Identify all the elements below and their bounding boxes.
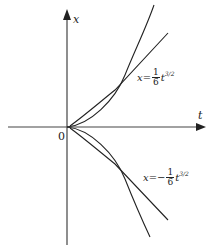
lower-curve-equation: x = − 1 6 t 3/2 bbox=[143, 168, 189, 188]
lower-eq-sign: − bbox=[157, 173, 165, 183]
t-axis-label: t bbox=[198, 110, 202, 121]
x-axis-label: x bbox=[73, 14, 79, 25]
lower-eq-equals: = bbox=[149, 173, 157, 183]
diagram-canvas: x t 0 x = 1 6 t 3/2 x = − 1 6 t 3/2 bbox=[0, 0, 210, 250]
lower-eq-exponent: 3/2 bbox=[179, 171, 189, 177]
upper-eq-equals: = bbox=[143, 73, 151, 83]
upper-curve-equation: x = 1 6 t 3/2 bbox=[137, 68, 174, 88]
lower-eq-fraction: 1 6 bbox=[166, 168, 174, 188]
t-axis-arrow-icon bbox=[196, 123, 206, 131]
upper-eq-fraction: 1 6 bbox=[152, 68, 160, 88]
plot-area bbox=[0, 0, 210, 250]
lower-eq-denominator: 6 bbox=[167, 178, 173, 187]
upper-eq-exponent: 3/2 bbox=[165, 71, 175, 77]
origin-label: 0 bbox=[58, 131, 65, 142]
x-axis-arrow-icon bbox=[63, 9, 71, 20]
upper-curve bbox=[67, 5, 154, 127]
upper-eq-denominator: 6 bbox=[153, 78, 159, 87]
lower-curve bbox=[67, 127, 150, 237]
